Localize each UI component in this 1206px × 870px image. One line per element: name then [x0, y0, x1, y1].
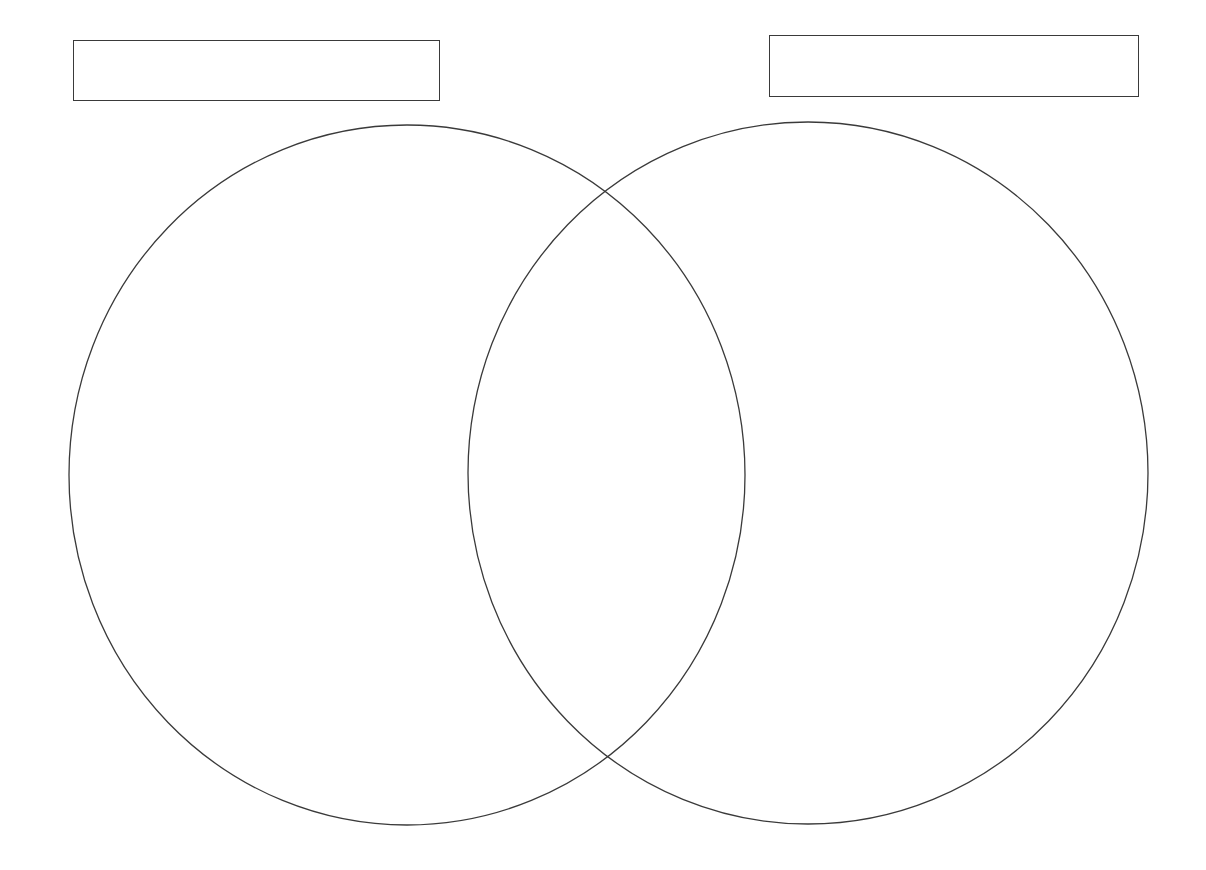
- venn-circles: [0, 0, 1206, 870]
- venn-diagram-canvas: [0, 0, 1206, 870]
- left-set-circle: [69, 125, 745, 825]
- right-set-circle: [468, 122, 1148, 824]
